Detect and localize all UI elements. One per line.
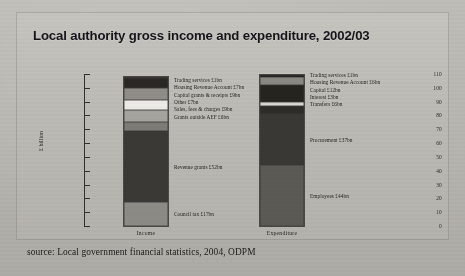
segment-label: Council tax £17bn <box>174 211 214 217</box>
bar-segment[interactable] <box>260 77 304 85</box>
y-tick <box>84 129 90 130</box>
y-tick <box>84 102 90 103</box>
bar-segment[interactable] <box>124 100 168 110</box>
bar-segment[interactable] <box>124 122 168 130</box>
segment-label: Grants outside AEF £6bn <box>174 114 229 120</box>
segment-label: Other £7bn <box>174 99 198 105</box>
y-tick <box>84 115 90 116</box>
y-tick-label: 20 <box>398 195 442 201</box>
y-tick <box>84 157 90 158</box>
scanned-page: Local authority gross income and expendi… <box>0 0 465 276</box>
segment-label: Sales, fees & charges £9bn <box>174 106 232 112</box>
segment-label: Capital grants & receipts £9bn <box>174 92 240 98</box>
source-note: source: Local government financial stati… <box>27 247 256 257</box>
y-tick-label: 90 <box>398 99 442 105</box>
y-tick-label: 40 <box>398 168 442 174</box>
y-tick-label: 100 <box>398 85 442 91</box>
bar-segment[interactable] <box>260 165 304 226</box>
segment-label: Trading services £1bn <box>310 72 358 78</box>
y-tick-label: 110 <box>398 71 442 77</box>
segment-label: Interest £3bn <box>310 94 338 100</box>
y-tick <box>84 212 90 213</box>
segment-label: Trading services £1bn <box>174 77 222 83</box>
stacked-bar[interactable] <box>260 75 304 226</box>
y-tick-label: 60 <box>398 140 442 146</box>
segment-label: Capital £12bn <box>310 87 341 93</box>
segment-label: Employees £44bn <box>310 193 349 199</box>
y-tick <box>84 226 90 227</box>
bar-segment[interactable] <box>124 78 168 88</box>
bar-segment[interactable] <box>124 110 168 122</box>
y-tick <box>84 198 90 199</box>
stacked-bar[interactable] <box>124 77 168 226</box>
plot-area: 0102030405060708090100110 £ billion Trad… <box>32 64 442 240</box>
bar-segment[interactable] <box>260 85 304 102</box>
y-tick <box>84 143 90 144</box>
bar-segment[interactable] <box>124 131 168 203</box>
y-tick-label: 30 <box>398 182 442 188</box>
segment-label: Housing Revenue Account £6bn <box>310 79 380 85</box>
bar-segment[interactable] <box>260 106 304 114</box>
y-axis-label: £ billion <box>38 106 44 176</box>
y-tick <box>84 74 90 75</box>
y-tick-label: 80 <box>398 112 442 118</box>
segment-label: Procurement £37bn <box>310 137 352 143</box>
segment-label: Revenue grants £52bn <box>174 164 222 170</box>
y-tick-label: 70 <box>398 126 442 132</box>
bar-segment[interactable] <box>124 202 168 225</box>
y-tick-label: 50 <box>398 154 442 160</box>
bar-segment[interactable] <box>124 88 168 100</box>
bar-segment[interactable] <box>260 114 304 165</box>
y-axis-line <box>84 74 85 226</box>
chart-title: Local authority gross income and expendi… <box>33 28 370 43</box>
segment-label: Transfers £6bn <box>310 101 342 107</box>
y-tick <box>84 185 90 186</box>
y-tick-label: 0 <box>398 223 442 229</box>
category-label: Expenditure <box>247 230 317 236</box>
segment-label: Housing Revenue Account £7bn <box>174 84 244 90</box>
figure-panel: Local authority gross income and expendi… <box>16 12 449 240</box>
y-tick <box>84 171 90 172</box>
y-tick-label: 10 <box>398 209 442 215</box>
y-tick <box>84 88 90 89</box>
category-label: Income <box>111 230 181 236</box>
